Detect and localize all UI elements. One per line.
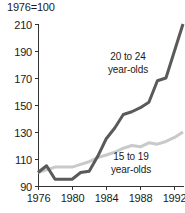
y-tick-label-190: 190 bbox=[14, 46, 32, 58]
series-annotation-line1-0: 20 to 24 bbox=[110, 51, 146, 62]
data-series-layer bbox=[38, 24, 183, 179]
y-tick-label-170: 170 bbox=[14, 73, 32, 85]
chart-plot-area: 90110130150170190210 1976198019841988199… bbox=[0, 0, 185, 213]
x-tick-label-1980: 1980 bbox=[61, 192, 85, 204]
x-tick-label-1976: 1976 bbox=[27, 192, 51, 204]
y-tick-label-130: 130 bbox=[14, 127, 32, 139]
x-tick-label-1992: 1992 bbox=[163, 192, 185, 204]
series-annotation-line1-1: 15 to 19 bbox=[113, 151, 149, 162]
y-tick-label-90: 90 bbox=[20, 181, 32, 193]
series-annotation-line2-1: year-olds bbox=[111, 164, 151, 175]
y-tick-label-110: 110 bbox=[15, 154, 32, 166]
y-axis-tick-labels: 90110130150170190210 bbox=[14, 19, 32, 193]
x-tick-label-1988: 1988 bbox=[129, 192, 153, 204]
y-axis-ticks bbox=[35, 25, 39, 187]
index-line-chart: 1976=100 90110130150170190210 1976198019… bbox=[0, 0, 185, 213]
x-axis-tick-labels: 19761980198419881992 bbox=[27, 192, 185, 204]
x-tick-label-1984: 1984 bbox=[95, 192, 119, 204]
series-line-20-to-24-year-olds bbox=[38, 24, 183, 179]
series-annotation-line2-0: year-olds bbox=[108, 64, 148, 75]
y-tick-label-150: 150 bbox=[14, 100, 32, 112]
y-tick-label-210: 210 bbox=[14, 19, 32, 31]
